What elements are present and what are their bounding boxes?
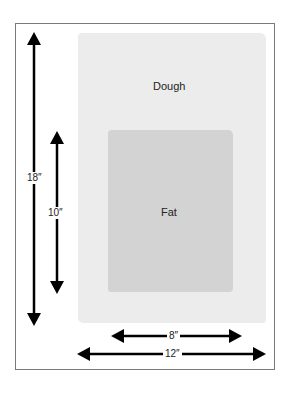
dough-width-label: 12″: [163, 348, 182, 360]
dimension-arrows: [0, 0, 289, 393]
dough-height-label: 18″: [25, 172, 44, 184]
fat-width-label: 8″: [167, 330, 180, 342]
fat-height-label: 10″: [46, 207, 65, 219]
